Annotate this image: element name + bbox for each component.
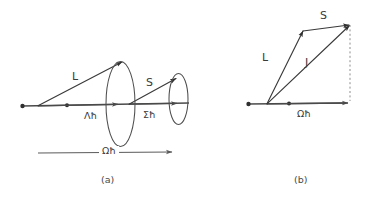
panel-a-caption: (a) xyxy=(101,175,114,185)
panel-a-label-omega-h-bar: Ωħ xyxy=(99,146,119,156)
panel-a-group xyxy=(20,62,189,154)
figure-canvas xyxy=(0,0,377,197)
panel-a-label-lambda-h-bar: Λħ xyxy=(84,111,97,121)
panel-b-label-omega-h-bar: Ωħ xyxy=(297,109,311,119)
panel-b-group xyxy=(246,25,350,106)
panel-b-caption: (b) xyxy=(294,175,307,185)
panel-b-omega-projection-arrow xyxy=(267,103,348,104)
panel-b-label-J: J xyxy=(305,57,308,68)
panel-b-vector-J xyxy=(267,26,350,104)
panel-a-label-sigma-h-bar: Σħ xyxy=(143,110,156,120)
panel-a-label-S: S xyxy=(146,77,153,88)
panel-b-vector-S xyxy=(303,25,349,31)
panel-b-label-L: L xyxy=(262,52,268,63)
figure-root: L S Λħ Σħ Ωħ (a) L S J Ωħ (b) xyxy=(0,0,377,197)
panel-b-label-S: S xyxy=(320,10,327,21)
panel-a-origin-dot xyxy=(20,104,24,108)
panel-b-vector-L xyxy=(267,31,303,104)
panel-a-vector-L xyxy=(38,62,122,106)
panel-a-label-L: L xyxy=(72,71,78,82)
panel-a-sigma-projection-arrow xyxy=(129,103,177,104)
panel-a-small-precession-cone xyxy=(169,74,188,125)
panel-b-origin-dot xyxy=(246,102,250,106)
